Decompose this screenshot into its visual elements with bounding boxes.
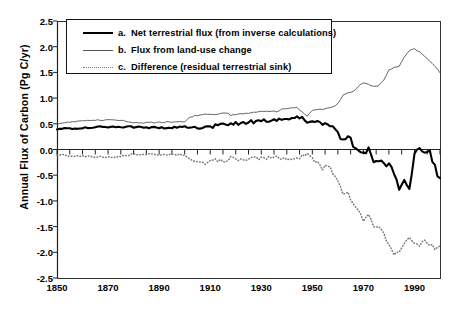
legend-text-c: Difference (residual terrestrial sink): [131, 62, 291, 72]
legend-label-b: b.Flux from land-use change: [118, 45, 252, 55]
legend-key-b: b.: [118, 45, 131, 55]
legend-text-b: Flux from land-use change: [131, 45, 252, 55]
legend-item-b: b.Flux from land-use change: [67, 42, 331, 58]
legend-key-c: c.: [118, 62, 131, 72]
legend-item-c: c.Difference (residual terrestrial sink): [67, 59, 331, 75]
legend-swatch-a: [78, 32, 118, 34]
legend-text-a: Net terrestrial flux (from inverse calcu…: [131, 28, 336, 38]
legend-swatch-c: [78, 67, 118, 68]
legend-swatch-b: [78, 50, 118, 51]
chart-legend: a.Net terrestrial flux (from inverse cal…: [66, 19, 332, 74]
legend-label-c: c.Difference (residual terrestrial sink): [118, 62, 291, 72]
legend-item-a: a.Net terrestrial flux (from inverse cal…: [67, 25, 331, 41]
legend-label-a: a.Net terrestrial flux (from inverse cal…: [118, 28, 336, 38]
chart-figure: Annual Flux of Carbon (Pg C/yr) 2.52.01.…: [0, 0, 451, 310]
series-line-c: [57, 153, 440, 255]
legend-key-a: a.: [118, 28, 131, 38]
